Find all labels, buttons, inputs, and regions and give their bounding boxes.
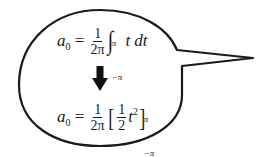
- eq2-inner-den: 2: [118, 118, 125, 133]
- eq2-open-bracket: [: [108, 101, 114, 135]
- eq2-inner-fraction: 12: [117, 103, 126, 133]
- eq2-frac-num: 1: [93, 103, 102, 118]
- eq1-frac-num: 1: [93, 27, 102, 42]
- eq2-close-bracket: ]: [139, 101, 145, 135]
- equation-2: a0 = 12π[12t2]π−π: [57, 95, 157, 136]
- eq2-frac-den: 2π: [91, 118, 105, 133]
- integral-sign: ∫: [107, 24, 113, 58]
- eq1-equals: =: [75, 31, 85, 50]
- eq2-lhs-var: a: [57, 107, 66, 126]
- down-arrow-icon: [92, 66, 108, 91]
- eq2-term-exp: 2: [133, 106, 138, 117]
- eq1-lower-limit: −π: [112, 60, 123, 94]
- eq1-integrand: t dt: [125, 31, 147, 50]
- equation-1: a0 = 12π∫π−πt dt: [57, 24, 148, 60]
- down-arrow-icon-svg: [92, 66, 108, 91]
- eq2-inner-num: 1: [117, 103, 126, 118]
- eq1-frac-den: 2π: [91, 42, 105, 57]
- eq1-lhs-sub: 0: [66, 41, 71, 52]
- eq2-fraction: 12π: [91, 103, 105, 133]
- eq1-lhs-var: a: [57, 31, 66, 50]
- eq2-equals: =: [75, 107, 85, 126]
- eq2-lower-limit: −π: [144, 136, 155, 157]
- eq2-lhs-sub: 0: [66, 117, 71, 128]
- eq1-fraction: 12π: [91, 27, 105, 57]
